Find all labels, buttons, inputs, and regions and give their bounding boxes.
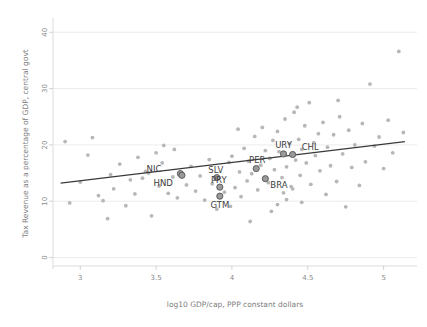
data-point xyxy=(276,129,280,133)
point-label-URY: URY xyxy=(275,140,293,150)
data-point xyxy=(294,158,298,162)
data-point xyxy=(141,176,145,180)
data-point xyxy=(317,132,321,136)
data-point xyxy=(326,145,330,149)
data-point xyxy=(318,169,322,173)
data-point xyxy=(91,136,95,140)
data-point xyxy=(150,214,154,218)
data-point xyxy=(300,200,304,204)
data-point xyxy=(357,184,361,188)
data-point xyxy=(172,148,176,152)
data-point xyxy=(335,180,339,184)
data-point xyxy=(263,149,267,153)
data-point xyxy=(397,50,401,54)
data-point xyxy=(101,199,105,203)
point-label-SLV: SLV xyxy=(208,165,223,175)
point-label-CHL: CHL xyxy=(302,142,319,152)
data-point xyxy=(253,135,257,139)
data-point xyxy=(332,133,336,137)
y-tick-label-20: 20 xyxy=(41,140,49,149)
highlighted-point-CHL xyxy=(290,151,296,157)
highlighted-point-GTM xyxy=(217,193,223,199)
y-tick-label-40: 40 xyxy=(41,28,49,37)
data-point xyxy=(273,168,277,172)
data-point xyxy=(245,179,249,183)
point-label-NIC: NIC xyxy=(147,164,162,174)
data-point xyxy=(338,115,342,119)
data-point xyxy=(391,151,395,155)
data-point xyxy=(136,155,140,159)
data-point xyxy=(133,192,137,196)
data-point xyxy=(350,166,354,170)
data-point xyxy=(109,173,113,177)
data-point xyxy=(124,204,128,208)
data-point xyxy=(377,135,381,139)
data-point xyxy=(68,201,72,205)
data-point xyxy=(295,105,299,109)
data-point xyxy=(347,128,351,132)
data-point xyxy=(321,120,325,124)
data-point xyxy=(303,124,307,128)
data-point xyxy=(239,195,243,199)
data-point xyxy=(242,146,246,150)
data-point xyxy=(282,191,286,195)
data-point xyxy=(233,186,237,190)
data-point xyxy=(291,187,295,191)
data-point xyxy=(297,137,301,141)
data-point xyxy=(401,131,405,135)
y-tick-label-10: 10 xyxy=(41,197,49,206)
data-point xyxy=(185,183,189,187)
point-label-HND: HND xyxy=(154,178,174,188)
data-point xyxy=(250,172,254,176)
data-point xyxy=(386,118,390,122)
x-tick-label-4: 4 xyxy=(230,274,235,282)
data-point xyxy=(118,162,122,166)
data-point xyxy=(162,144,166,148)
x-axis-title: log10 GDP/cap, PPP constant dollars xyxy=(167,300,303,309)
data-point xyxy=(382,167,386,171)
data-point xyxy=(166,191,170,195)
data-point xyxy=(128,178,132,182)
data-point xyxy=(307,101,311,105)
data-point xyxy=(194,189,198,193)
data-point xyxy=(353,143,357,147)
data-point xyxy=(344,205,348,209)
data-point xyxy=(276,203,280,207)
y-tick-label-30: 30 xyxy=(41,84,49,93)
data-point xyxy=(207,158,211,162)
data-point xyxy=(112,187,116,191)
point-label-GTM: GTM xyxy=(210,200,229,210)
data-point xyxy=(313,154,317,158)
data-point xyxy=(298,173,302,177)
data-point xyxy=(230,154,234,158)
highlighted-point-PER xyxy=(253,165,259,171)
x-tick-label-3: 3 xyxy=(78,274,82,282)
point-label-PER: PER xyxy=(249,155,265,165)
data-point xyxy=(285,198,289,202)
data-point xyxy=(292,110,296,114)
data-point xyxy=(198,174,202,178)
data-point xyxy=(309,182,313,186)
highlighted-point-URY xyxy=(280,151,286,157)
data-point xyxy=(304,161,308,165)
chart-canvas: 01020304033.544.55log10 GDP/cap, PPP con… xyxy=(0,0,427,327)
data-point xyxy=(336,99,340,103)
data-point xyxy=(175,196,179,200)
point-label-BRA: BRA xyxy=(270,180,287,190)
data-point xyxy=(260,126,264,130)
trend-line xyxy=(61,142,405,184)
highlighted-point-HND xyxy=(179,172,185,178)
highlighted-point-BRA xyxy=(262,176,268,182)
data-point xyxy=(222,190,226,194)
x-tick-label-3.5: 3.5 xyxy=(151,274,162,282)
data-point xyxy=(63,140,67,144)
data-point xyxy=(270,209,274,213)
data-point xyxy=(341,152,345,156)
data-point xyxy=(97,194,101,198)
y-tick-label-0: 0 xyxy=(41,255,49,259)
data-point xyxy=(329,164,333,168)
data-point xyxy=(324,193,328,197)
point-label-PRY: PRY xyxy=(211,175,227,185)
data-point xyxy=(86,153,90,157)
data-point xyxy=(248,220,252,224)
